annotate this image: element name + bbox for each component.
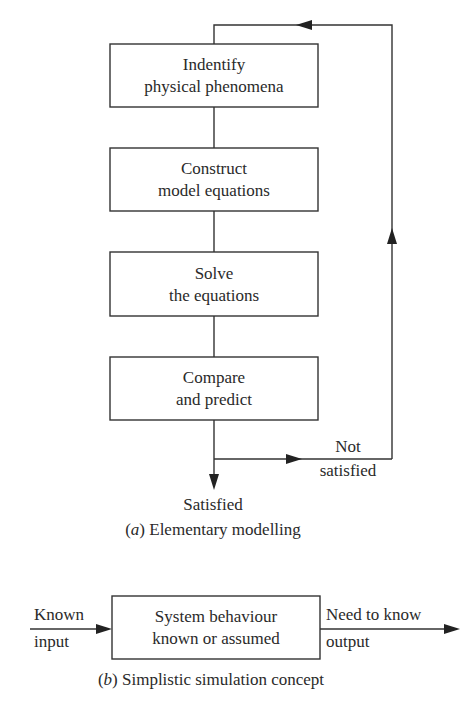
- output-label-line1: Need to know: [326, 605, 422, 624]
- box-construct-line2: model equations: [158, 181, 270, 200]
- box-solve-line2: the equations: [169, 286, 259, 305]
- not-satisfied-arrow-right-icon: [286, 454, 302, 464]
- figure-canvas: Indentify physical phenomena Construct m…: [0, 0, 460, 713]
- box-solve-equations: Solve the equations: [110, 252, 318, 316]
- box-compare-line1: Compare: [183, 368, 245, 387]
- not-satisfied-label-line1: Not: [335, 437, 361, 456]
- system-box-line1: System behaviour: [155, 607, 278, 626]
- input-label-line2: input: [34, 632, 69, 651]
- box-construct-line1: Construct: [181, 159, 247, 178]
- output-arrow-right-icon: [444, 624, 460, 634]
- box-system-behaviour: System behaviour known or assumed: [112, 596, 320, 659]
- feedback-arrow-up-icon: [387, 228, 397, 244]
- box-identify-line2: physical phenomena: [144, 77, 284, 96]
- diagram-elementary-modelling: Indentify physical phenomena Construct m…: [110, 20, 397, 539]
- caption-a: (a) Elementary modelling: [125, 520, 301, 539]
- diagram-simulation-concept: Known input System behaviour known or as…: [30, 596, 460, 689]
- output-label-line2: output: [326, 632, 370, 651]
- system-box-line2: known or assumed: [152, 629, 280, 648]
- box-identify-line1: Indentify: [183, 55, 246, 74]
- caption-a-text: Elementary modelling: [145, 520, 301, 539]
- box-construct-equations: Construct model equations: [110, 148, 318, 211]
- box-identify-phenomena: Indentify physical phenomena: [110, 44, 318, 107]
- not-satisfied-label-line2: satisfied: [320, 461, 377, 480]
- caption-b: (b) Simplistic simulation concept: [98, 670, 324, 689]
- caption-b-text: Simplistic simulation concept: [118, 670, 325, 689]
- box-compare-line2: and predict: [176, 390, 252, 409]
- box-solve-line1: Solve: [195, 264, 234, 283]
- feedback-arrow-left-icon: [296, 20, 312, 30]
- input-label-line1: Known: [34, 605, 85, 624]
- input-arrow-right-icon: [96, 624, 112, 634]
- satisfied-arrow-down-icon: [209, 474, 219, 490]
- satisfied-label: Satisfied: [183, 495, 243, 514]
- box-compare-predict: Compare and predict: [110, 357, 318, 420]
